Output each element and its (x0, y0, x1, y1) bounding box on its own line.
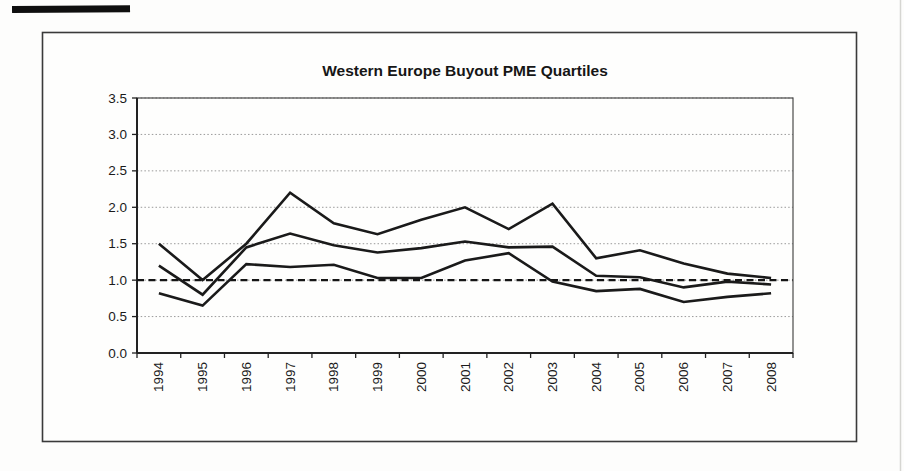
x-axis-label-group: 1999 (370, 362, 385, 392)
x-axis-label: 1998 (326, 362, 341, 392)
x-axis-label: 2004 (589, 362, 604, 393)
x-axis-label-group: 2006 (676, 362, 691, 392)
x-axis-label: 2006 (676, 362, 691, 392)
y-axis-label: 3.0 (108, 127, 127, 142)
x-axis-label-group: 2003 (545, 362, 560, 392)
scan-artifact-bar (12, 5, 130, 13)
x-axis-label: 1997 (283, 362, 298, 392)
x-axis-label-group: 2008 (764, 362, 779, 392)
x-axis-label-group: 1995 (195, 362, 210, 392)
x-axis-label: 1999 (370, 362, 385, 392)
scanned-chart-page: Western Europe Buyout PME Quartiles 0.00… (0, 0, 904, 471)
x-axis-label: 2007 (720, 362, 735, 392)
x-axis-label: 2002 (501, 362, 516, 392)
y-axis-label: 0.0 (108, 346, 127, 361)
x-axis-label-group: 2001 (458, 362, 473, 392)
y-axis-label: 1.5 (108, 236, 127, 251)
x-axis-label: 2005 (632, 362, 647, 392)
x-axis-label: 1994 (151, 362, 166, 393)
x-axis-label: 2001 (458, 362, 473, 392)
x-axis-label: 2003 (545, 362, 560, 392)
y-axis-label: 2.0 (108, 200, 127, 215)
x-axis-label-group: 2000 (414, 362, 429, 392)
x-axis-label-group: 2004 (589, 362, 604, 393)
x-axis-label: 2008 (764, 362, 779, 392)
pme-quartiles-chart: Western Europe Buyout PME Quartiles 0.00… (0, 0, 904, 471)
x-axis-label-group: 2005 (632, 362, 647, 392)
x-axis-label-group: 2007 (720, 362, 735, 392)
x-axis-label-group: 1996 (239, 362, 254, 392)
x-axis-label: 1995 (195, 362, 210, 392)
y-axis-label: 2.5 (108, 163, 127, 178)
y-axis-label: 0.5 (108, 309, 127, 324)
y-axis-label: 3.5 (108, 91, 127, 106)
x-axis-label-group: 1997 (283, 362, 298, 392)
chart-title: Western Europe Buyout PME Quartiles (322, 62, 608, 79)
y-axis-label: 1.0 (108, 273, 127, 288)
x-axis-label-group: 1994 (151, 362, 166, 393)
x-axis-label: 2000 (414, 362, 429, 392)
x-axis-label-group: 2002 (501, 362, 516, 392)
x-axis-label: 1996 (239, 362, 254, 392)
x-axis-label-group: 1998 (326, 362, 341, 392)
